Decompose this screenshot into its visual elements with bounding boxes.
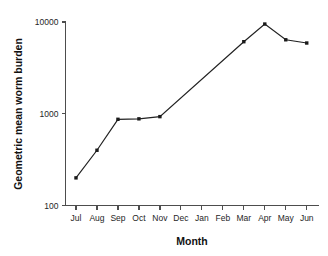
y-axis-ticks: 100100010000 [35, 17, 66, 211]
data-point-marker [116, 118, 119, 121]
data-point-marker [284, 38, 287, 41]
data-series-group [74, 22, 308, 179]
x-tick-label: Apr [258, 213, 271, 223]
x-tick-label: Jul [71, 213, 82, 223]
x-tick-label: Jan [195, 213, 209, 223]
data-point-marker [305, 41, 308, 44]
chart-figure: Geometric mean worm burden 100100010000 … [0, 0, 328, 256]
x-tick-label: Mar [236, 213, 251, 223]
series-line [76, 24, 307, 178]
data-point-marker [158, 115, 161, 118]
data-point-marker [263, 22, 266, 25]
x-tick-label: Jun [300, 213, 314, 223]
x-tick-label: Sep [110, 213, 125, 223]
line-chart-plot: Geometric mean worm burden 100100010000 … [0, 0, 328, 256]
data-point-marker [137, 117, 140, 120]
x-tick-label: Oct [132, 213, 146, 223]
data-point-marker [74, 176, 77, 179]
x-axis-ticks: JulAugSepOctNovDecJanFebMarAprMayJun [71, 206, 314, 223]
y-tick-label: 10000 [35, 17, 59, 27]
x-axis-title: Month [176, 235, 208, 247]
x-tick-label: Feb [216, 213, 231, 223]
x-tick-label: Nov [152, 213, 168, 223]
data-point-marker [242, 40, 245, 43]
y-tick-label: 100 [44, 201, 58, 211]
y-axis-title: Geometric mean worm burden [12, 38, 24, 190]
x-tick-label: May [278, 213, 295, 223]
data-point-marker [95, 149, 98, 152]
x-tick-label: Dec [173, 213, 189, 223]
y-tick-label: 1000 [40, 109, 59, 119]
x-tick-label: Aug [89, 213, 104, 223]
